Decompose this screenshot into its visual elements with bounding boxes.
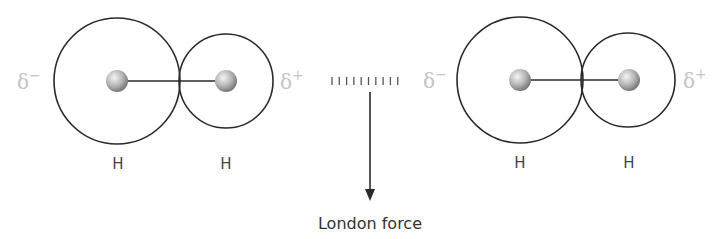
nucleus-sphere-icon xyxy=(215,70,237,92)
london-force-diagram: δ− δ+ H H London force xyxy=(0,0,723,239)
atom-label: H xyxy=(112,155,123,173)
partial-charge-negative: δ− xyxy=(423,66,447,93)
london-force-interaction: London force xyxy=(318,77,422,233)
partial-charge-positive: δ+ xyxy=(280,67,304,94)
atom-label: H xyxy=(623,154,634,172)
partial-charge-positive: δ+ xyxy=(683,66,707,93)
nucleus-sphere-icon xyxy=(106,70,128,92)
nucleus-sphere-icon xyxy=(618,69,640,91)
atom-label: H xyxy=(220,155,231,173)
left-molecule: δ− δ+ H H xyxy=(17,18,304,173)
dash-ticks xyxy=(332,77,398,85)
right-molecule: δ− δ+ H H xyxy=(423,17,707,172)
partial-charge-negative: δ− xyxy=(17,67,41,94)
london-force-caption: London force xyxy=(318,214,422,233)
atom-label: H xyxy=(514,154,525,172)
arrow-down-icon xyxy=(365,92,375,201)
nucleus-sphere-icon xyxy=(509,69,531,91)
